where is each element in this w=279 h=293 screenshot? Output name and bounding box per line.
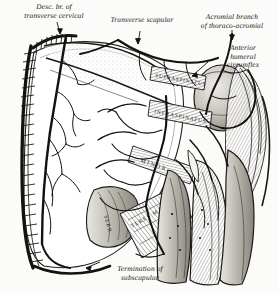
label-anterior-humeral-circumflex: Anterior humeral circumflex [209, 44, 277, 70]
label-acromial-branch-thoracoacromial: Acromial branch of thoraco-acromial [186, 13, 278, 30]
label-termination-of-subscapular: Termination of subscapular [88, 265, 192, 282]
anatomical-plate: SUPRASPINATUS INFRASPINATUS MINOR SERR. [0, 0, 279, 293]
label-transverse-scapular: Transverse scapular [100, 16, 184, 25]
label-descending-branch-transverse-cervical: Desc. br. of transverse cervical [6, 3, 102, 20]
